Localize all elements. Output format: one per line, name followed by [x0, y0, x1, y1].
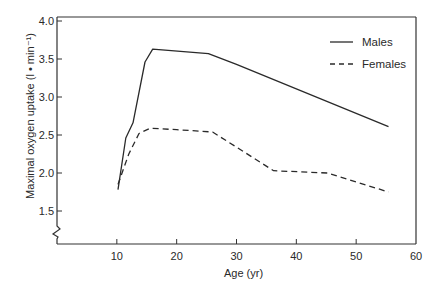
y-tick-label: 1.5: [39, 205, 54, 217]
x-tick-label: 30: [230, 250, 242, 262]
legend-label-males: Males: [362, 36, 393, 48]
legend: MalesFemales: [330, 36, 406, 70]
series-lines: [118, 49, 389, 192]
y-tick-label: 2.0: [39, 167, 54, 179]
x-axis-ticks: 102030405060: [111, 239, 422, 262]
x-axis-label: Age (yr): [224, 267, 263, 279]
x-tick-label: 50: [350, 250, 362, 262]
legend-label-females: Females: [362, 58, 406, 70]
y-axis-line-with-break: [53, 17, 60, 244]
x-tick-label: 60: [410, 250, 422, 262]
plot-frame: [53, 17, 416, 244]
y-tick-label: 4.0: [39, 15, 54, 27]
x-tick-label: 20: [171, 250, 183, 262]
y-tick-label: 2.5: [39, 129, 54, 141]
x-tick-label: 40: [290, 250, 302, 262]
series-males-line: [118, 49, 389, 190]
y-tick-label: 3.5: [39, 53, 54, 65]
y-axis-ticks: 1.52.02.53.03.54.0: [39, 15, 62, 217]
x-tick-label: 10: [111, 250, 123, 262]
series-females-line: [118, 128, 389, 192]
chart: 1.52.02.53.03.54.0 102030405060 MalesFem…: [0, 0, 445, 297]
y-axis-label: Maximal oxygen uptake (l • min⁻¹): [24, 33, 36, 199]
y-tick-label: 3.0: [39, 91, 54, 103]
